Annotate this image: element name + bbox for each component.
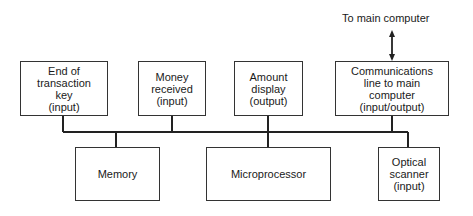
microprocessor-box: Microprocessor: [206, 147, 331, 201]
memory-box: Memory: [75, 147, 160, 201]
end-of-transaction-key-box: End of transaction key (input): [20, 61, 108, 116]
to-main-computer-label: To main computer: [342, 12, 429, 24]
communications-line-box: Communications line to main computer (in…: [335, 61, 449, 116]
optical-scanner-box: Optical scanner (input): [378, 147, 440, 201]
amount-display-box: Amount display (output): [234, 61, 303, 116]
money-received-box: Money received (input): [138, 61, 206, 116]
